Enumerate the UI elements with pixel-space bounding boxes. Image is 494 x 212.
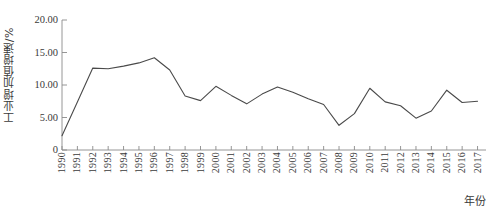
x-tick-label: 1999 <box>195 152 207 196</box>
x-tick-label: 1994 <box>118 152 130 196</box>
x-tick-label: 2003 <box>256 152 268 196</box>
x-tick-label-text: 1991 <box>71 152 83 173</box>
x-tick-label: 2010 <box>364 152 376 196</box>
x-tick-label: 2005 <box>287 152 299 196</box>
y-tick-label: 20.00 <box>14 15 58 25</box>
x-tick-label: 1993 <box>102 152 114 196</box>
x-tick-label: 2011 <box>379 152 391 196</box>
x-tick-label: 2015 <box>441 152 453 196</box>
x-tick-label: 2008 <box>333 152 345 196</box>
x-tick-label-text: 2008 <box>333 152 345 173</box>
x-tick-label-text: 2006 <box>302 152 314 173</box>
y-tick-label: 10.00 <box>14 80 58 90</box>
axis-lines <box>62 20 486 150</box>
x-tick-label: 2016 <box>456 152 468 196</box>
x-tick-label-text: 2007 <box>318 152 330 173</box>
x-tick-label: 2012 <box>395 152 407 196</box>
x-tick-label-text: 2004 <box>271 152 283 173</box>
data-series-group <box>62 58 478 136</box>
x-tick-label: 1997 <box>164 152 176 196</box>
x-tick-label: 2009 <box>348 152 360 196</box>
x-tick-label: 2013 <box>410 152 422 196</box>
x-tick-label-text: 1997 <box>164 152 176 173</box>
axis-ticks <box>62 20 478 150</box>
x-tick-label-text: 2014 <box>425 152 437 173</box>
data-line <box>62 58 478 136</box>
x-axis-title: 年份 <box>464 192 486 208</box>
x-tick-label-text: 2000 <box>210 152 222 173</box>
x-tick-label: 1990 <box>56 152 68 196</box>
y-axis-tick-labels: 05.0010.0015.0020.00 <box>14 0 58 160</box>
y-tick-label: 15.00 <box>14 48 58 58</box>
x-tick-label: 2017 <box>472 152 484 196</box>
x-tick-label: 2007 <box>318 152 330 196</box>
x-tick-label: 1998 <box>179 152 191 196</box>
x-tick-label-text: 2003 <box>256 152 268 173</box>
chart-container: 工业增加值增速/% 05.0010.0015.0020.00 199019911… <box>0 0 494 212</box>
x-tick-label: 1995 <box>133 152 145 196</box>
x-tick-label: 2001 <box>225 152 237 196</box>
line-chart-svg <box>62 20 486 150</box>
x-tick-label-text: 1999 <box>195 152 207 173</box>
x-tick-label-text: 2011 <box>379 152 391 173</box>
plot-area <box>62 20 486 150</box>
y-tick-label: 5.00 <box>14 113 58 123</box>
x-tick-label: 2002 <box>241 152 253 196</box>
x-tick-label: 2014 <box>425 152 437 196</box>
x-tick-label-text: 2012 <box>395 152 407 173</box>
x-tick-label-text: 1990 <box>56 152 68 173</box>
x-tick-label-text: 2001 <box>225 152 237 173</box>
x-tick-label-text: 2005 <box>287 152 299 173</box>
x-tick-label-text: 1994 <box>118 152 130 173</box>
x-tick-label: 2004 <box>271 152 283 196</box>
x-tick-label-text: 2016 <box>456 152 468 173</box>
x-tick-label-text: 1993 <box>102 152 114 173</box>
x-tick-label-text: 2010 <box>364 152 376 173</box>
x-tick-label-text: 1992 <box>87 152 99 173</box>
x-tick-label-text: 2013 <box>410 152 422 173</box>
x-tick-label: 2000 <box>210 152 222 196</box>
x-tick-label: 1996 <box>148 152 160 196</box>
x-tick-label-text: 1998 <box>179 152 191 173</box>
x-tick-label: 1991 <box>71 152 83 196</box>
x-tick-label: 2006 <box>302 152 314 196</box>
x-axis-tick-labels: 1990199119921993199419951996199719981999… <box>62 152 486 198</box>
x-tick-label-text: 2017 <box>472 152 484 173</box>
x-tick-label-text: 2009 <box>348 152 360 173</box>
x-tick-label-text: 1996 <box>148 152 160 173</box>
x-tick-label-text: 2015 <box>441 152 453 173</box>
x-tick-label-text: 2002 <box>241 152 253 173</box>
y-tick-label: 0 <box>14 145 58 155</box>
x-tick-label-text: 1995 <box>133 152 145 173</box>
x-tick-label: 1992 <box>87 152 99 196</box>
x-axis-title-text: 年份 <box>464 195 486 208</box>
